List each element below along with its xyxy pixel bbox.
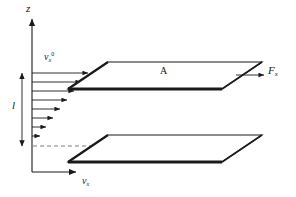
force-symbol: F <box>268 64 275 76</box>
top-velocity-superscript: 0 <box>51 51 54 57</box>
top-velocity-label: vx0 <box>44 52 54 62</box>
lower-plate <box>68 135 262 162</box>
figure-canvas <box>0 0 296 197</box>
vx-symbol: v <box>82 175 86 186</box>
top-velocity-symbol: v <box>44 51 48 62</box>
couette-flow-figure: z vx0 l A Fx vx <box>0 0 296 197</box>
vx-subscript: x <box>87 180 90 187</box>
z-axis-label: z <box>26 3 30 14</box>
lower-plate-surface <box>68 135 262 162</box>
plate-area-label: A <box>160 66 167 76</box>
vx-axis-label: vx <box>82 176 89 186</box>
force-label: Fx <box>268 65 278 76</box>
force-subscript: x <box>275 70 278 77</box>
gap-length-label: l <box>12 100 15 111</box>
